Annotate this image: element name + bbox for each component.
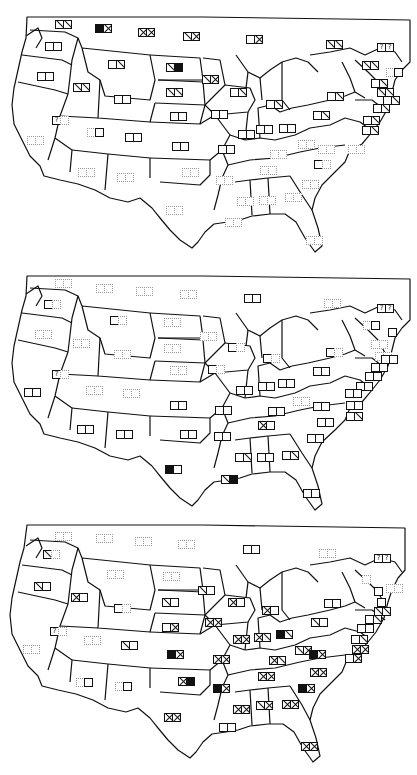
glyph-cell-diag-icon <box>379 79 388 88</box>
glyph-cell-diag-icon <box>243 453 252 462</box>
glyph-cell-dotted-icon <box>224 176 233 185</box>
glyph-cell-dotted-icon <box>131 389 140 398</box>
region-glyph: ?? <box>374 554 391 563</box>
region-glyph <box>114 604 131 613</box>
glyph-cell-open-icon <box>325 418 334 427</box>
region-glyph <box>270 150 287 159</box>
glyph-cell-dotted-icon <box>92 636 101 645</box>
glyph-cell-open-icon <box>389 355 398 364</box>
region-glyph <box>345 389 362 398</box>
region-glyph <box>213 684 230 693</box>
region-glyph <box>121 641 138 650</box>
glyph-cell-open-icon <box>188 430 197 439</box>
glyph-cell-diag-icon <box>381 104 390 113</box>
region-glyph <box>213 655 230 664</box>
region-glyph <box>388 328 397 337</box>
glyph-cell-open-icon <box>124 430 133 439</box>
glyph-cell-dotted-icon <box>322 160 331 169</box>
region-glyph <box>183 32 200 41</box>
glyph-cell-open-icon <box>251 545 260 554</box>
region-glyph <box>246 35 263 44</box>
glyph-cell-open-icon <box>95 128 104 137</box>
glyph-cell-dotted-icon <box>394 584 403 593</box>
glyph-cell-dotted-icon <box>301 397 310 406</box>
region-glyph <box>303 489 320 498</box>
glyph-cell-dotted-icon <box>115 570 124 579</box>
region-glyph <box>243 545 260 554</box>
glyph-cell-dotted-icon <box>143 537 152 546</box>
glyph-cell-dotted-icon <box>310 180 319 189</box>
glyph-cell-open-icon <box>377 598 386 607</box>
glyph-cell-dotted-icon <box>190 168 199 177</box>
region-glyph <box>257 453 274 462</box>
region-glyph <box>116 430 133 439</box>
region-glyph <box>71 593 88 602</box>
glyph-cell-dotted-icon <box>332 299 341 308</box>
region-glyph <box>115 682 132 691</box>
glyph-cell-open-icon <box>129 641 138 650</box>
glyph-cell-dotted-icon <box>144 287 153 296</box>
region-glyph: ? <box>52 370 69 379</box>
region-glyph <box>170 401 187 410</box>
glyph-cell-diag-icon <box>373 615 382 624</box>
glyph-cell-open-icon <box>332 599 341 608</box>
glyph-cell-cross-icon <box>360 645 369 654</box>
glyph-cell-diag-icon <box>262 633 271 642</box>
region-glyph <box>365 372 382 381</box>
glyph-cell-open-icon <box>354 401 363 410</box>
glyph-cell-open-icon <box>319 618 328 627</box>
region-glyph <box>346 401 363 410</box>
glyph-cell-diag-icon <box>290 451 299 460</box>
glyph-cell-open-icon <box>123 682 132 691</box>
region-glyph <box>302 180 319 189</box>
glyph-cell-dotted-icon <box>86 168 95 177</box>
glyph-cell-dotted-icon <box>236 343 245 352</box>
region-glyph <box>313 367 330 376</box>
glyph-cell-cross-icon <box>254 35 263 44</box>
glyph-cell-open-icon <box>373 372 382 381</box>
glyph-cell-diag-icon <box>370 61 379 70</box>
region-glyph <box>244 294 261 303</box>
region-glyph <box>27 136 44 145</box>
region-glyph <box>233 635 250 644</box>
glyph-cell-cross-icon <box>241 635 250 644</box>
region-glyph <box>164 344 181 353</box>
region-glyph <box>319 549 336 558</box>
region-glyph <box>87 128 104 137</box>
region-glyph <box>309 650 326 659</box>
glyph-cell-diag-icon <box>334 40 343 49</box>
region-glyph <box>162 623 179 632</box>
glyph-cell-open-icon <box>236 598 245 607</box>
glyph-cell-dotted-icon <box>208 332 217 341</box>
region-glyph <box>78 168 95 177</box>
region-glyph <box>363 116 380 125</box>
glyph-cell-dotted-icon <box>104 534 113 543</box>
region-glyph <box>268 407 285 416</box>
glyph-cell-dotted-icon <box>356 145 365 154</box>
region-glyph <box>165 465 182 474</box>
region-glyph <box>73 339 90 348</box>
glyph-cell-open-icon <box>353 389 362 398</box>
glyph-cell-open-icon <box>223 406 232 415</box>
glyph-cell-dotted-icon <box>35 136 44 145</box>
glyph-cell-open-icon <box>244 386 253 395</box>
glyph-cell-dotted-icon <box>188 290 197 299</box>
region-glyph <box>221 475 238 484</box>
region-glyph <box>107 570 124 579</box>
glyph-cell-open-icon <box>388 328 397 337</box>
region-glyph <box>254 633 271 642</box>
region-glyph <box>225 218 242 227</box>
glyph-cell-dotted-icon <box>63 532 72 541</box>
glyph-cell-open-icon <box>394 68 403 77</box>
region-glyph <box>310 668 327 677</box>
glyph-cell-cross-icon <box>221 655 230 664</box>
region-glyph <box>214 432 231 441</box>
map-panel-top: ??? <box>0 0 417 262</box>
region-glyph <box>374 587 383 596</box>
region-glyph <box>236 386 253 395</box>
region-glyph <box>125 133 142 142</box>
glyph-cell-cross-icon <box>266 672 275 681</box>
region-glyph <box>23 645 40 654</box>
region-glyph <box>170 112 187 121</box>
region-glyph <box>326 40 343 49</box>
